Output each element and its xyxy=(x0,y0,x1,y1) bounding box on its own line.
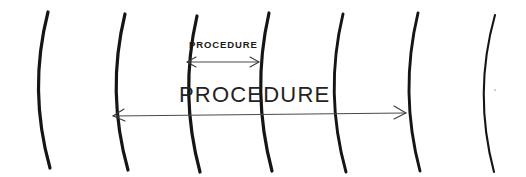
arc-2 xyxy=(116,14,128,170)
procedure-diagram: PROCEDURE PROCEDURE xyxy=(0,0,526,177)
arc-5 xyxy=(334,14,346,172)
arc-1 xyxy=(38,12,50,168)
scan-speck xyxy=(494,89,496,91)
short-dimension-arrow xyxy=(187,57,259,67)
arc-6 xyxy=(409,13,420,171)
short-span-label: PROCEDURE xyxy=(189,39,258,50)
long-span-label: PROCEDURE xyxy=(179,82,330,107)
diagram-canvas: PROCEDURE PROCEDURE xyxy=(0,0,526,177)
long-dimension-line xyxy=(113,113,406,116)
long-dimension-arrow xyxy=(113,106,406,121)
arc-7 xyxy=(484,15,495,172)
long-arrowhead-right xyxy=(394,106,406,119)
